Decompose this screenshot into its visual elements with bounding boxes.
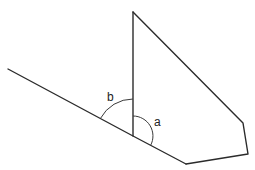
angle-a-label: a [154, 115, 161, 129]
angle-b-arc [100, 99, 133, 119]
shape-outline [133, 12, 248, 164]
geometry-diagram: b a [0, 0, 255, 170]
angle-b-label: b [107, 90, 114, 104]
